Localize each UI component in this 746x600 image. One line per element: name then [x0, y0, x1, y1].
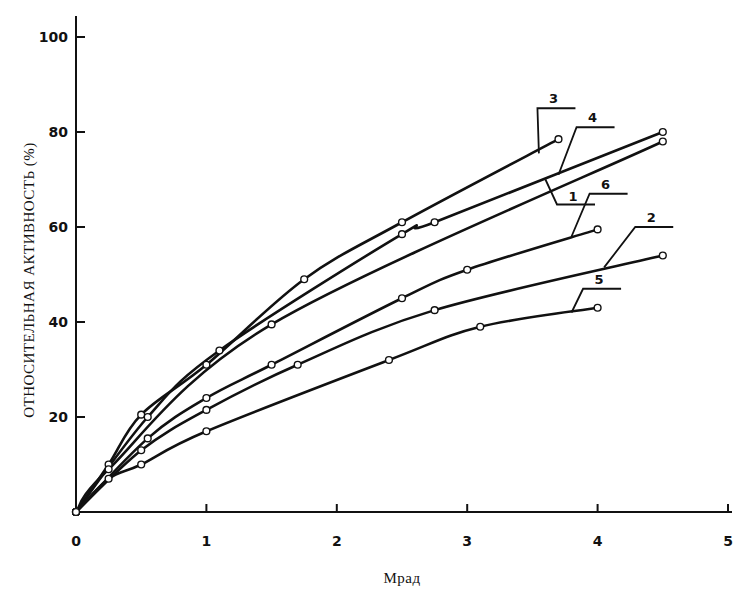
- y-tick-label: 80: [49, 124, 69, 140]
- data-point-marker: [203, 428, 210, 435]
- data-point-marker: [477, 323, 484, 330]
- data-point-marker: [73, 509, 80, 516]
- y-tick-label: 20: [49, 409, 69, 425]
- x-tick-label: 2: [332, 533, 342, 549]
- data-point-marker: [216, 347, 223, 354]
- series-label-4: 4: [588, 110, 597, 125]
- x-axis-title: Мрад: [383, 570, 420, 586]
- data-point-marker: [431, 219, 438, 226]
- data-point-marker: [203, 395, 210, 402]
- x-tick-label: 5: [723, 533, 733, 549]
- data-point-marker: [659, 138, 666, 145]
- data-point-marker: [138, 411, 145, 418]
- x-tick-label: 3: [462, 533, 472, 549]
- data-point-marker: [294, 361, 301, 368]
- y-tick-label: 40: [49, 314, 69, 330]
- series-label-3: 3: [549, 91, 558, 106]
- y-tick-label: 60: [49, 219, 69, 235]
- curve-2: [76, 256, 663, 513]
- data-point-marker: [105, 466, 112, 473]
- data-point-marker: [386, 357, 393, 364]
- x-tick-label: 1: [202, 533, 212, 549]
- data-point-marker: [203, 406, 210, 413]
- data-point-marker: [594, 304, 601, 311]
- data-point-marker: [399, 219, 406, 226]
- data-point-marker: [138, 461, 145, 468]
- data-point-marker: [138, 447, 145, 454]
- series-label-2: 2: [647, 210, 656, 225]
- chart: 01234520406080100 341625 Мрад ОТНОСИТЕЛЬ…: [0, 0, 746, 600]
- data-point-marker: [301, 276, 308, 283]
- data-point-marker: [659, 129, 666, 136]
- data-point-marker: [399, 295, 406, 302]
- series-label-5: 5: [595, 272, 604, 287]
- data-point-marker: [659, 252, 666, 259]
- data-point-marker: [399, 231, 406, 238]
- y-axis-title: ОТНОСИТЕЛЬНАЯ АКТИВНОСТЬ (%): [21, 142, 38, 418]
- y-tick-label: 100: [39, 29, 68, 45]
- data-point-marker: [144, 435, 151, 442]
- data-point-marker: [555, 136, 562, 143]
- data-point-marker: [268, 321, 275, 328]
- data-point-marker: [594, 226, 601, 233]
- curve-6: [76, 229, 598, 512]
- x-tick-label: 4: [593, 533, 603, 549]
- series-label-6: 6: [601, 177, 610, 192]
- data-point-marker: [431, 307, 438, 314]
- data-markers: [73, 129, 667, 516]
- axes: 01234520406080100: [39, 16, 733, 549]
- data-point-marker: [203, 361, 210, 368]
- series-label-1: 1: [568, 189, 577, 204]
- data-point-marker: [268, 361, 275, 368]
- data-point-marker: [144, 414, 151, 421]
- data-point-marker: [105, 475, 112, 482]
- data-point-marker: [464, 266, 471, 273]
- x-tick-label: 0: [71, 533, 81, 549]
